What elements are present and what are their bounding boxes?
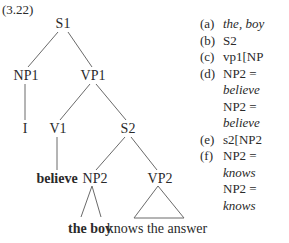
item-text: knows — [223, 165, 256, 182]
item-text: NP2 = — [223, 148, 257, 165]
item-text: believe — [223, 115, 260, 132]
node-s1: S1 — [56, 17, 71, 31]
list-item-f-cont: NP2 = — [200, 181, 264, 198]
item-text: vp1[NP — [223, 49, 263, 66]
answer-list: (a) the, boy (b) S2 (c) vp1[NP (d) NP2 =… — [200, 16, 264, 214]
node-vp2: VP2 — [148, 172, 173, 186]
list-item-b: (b) S2 — [200, 33, 264, 50]
node-knows-the-answer: knows the answer — [107, 222, 207, 236]
list-item-f: (f) NP2 = — [200, 148, 264, 165]
list-item-d: (d) NP2 = — [200, 66, 264, 83]
node-i: I — [23, 122, 28, 136]
item-text: the, boy — [223, 16, 264, 33]
item-text: NP2 = — [223, 181, 257, 198]
item-label: (b) — [200, 33, 223, 50]
item-text: believe — [223, 82, 260, 99]
item-label: (f) — [200, 148, 223, 165]
node-np2: NP2 — [83, 172, 108, 186]
node-the-boy: the boy — [68, 222, 112, 236]
list-item-c: (c) vp1[NP — [200, 49, 264, 66]
list-item-e: (e) s2[NP2 — [200, 132, 264, 149]
list-item-f-cont: knows — [200, 165, 264, 182]
node-np1: NP1 — [14, 69, 39, 83]
list-item-a: (a) the, boy — [200, 16, 264, 33]
item-text: S2 — [223, 33, 237, 50]
node-v1: V1 — [49, 122, 66, 136]
syntax-tree-branches — [0, 0, 200, 243]
node-vp1: VP1 — [81, 69, 106, 83]
list-item-d-cont: believe — [200, 82, 264, 99]
item-text: s2[NP2 — [223, 132, 262, 149]
item-label: (e) — [200, 132, 223, 149]
item-label: (c) — [200, 49, 223, 66]
list-item-d-cont: NP2 = — [200, 99, 264, 116]
item-label: (a) — [200, 16, 223, 33]
item-text: NP2 = — [223, 66, 257, 83]
item-label: (d) — [200, 66, 223, 83]
list-item-d-cont: believe — [200, 115, 264, 132]
node-believe: believe — [36, 172, 77, 186]
item-text: knows — [223, 198, 256, 215]
list-item-f-cont: knows — [200, 198, 264, 215]
item-text: NP2 = — [223, 99, 257, 116]
node-s2: S2 — [121, 122, 136, 136]
